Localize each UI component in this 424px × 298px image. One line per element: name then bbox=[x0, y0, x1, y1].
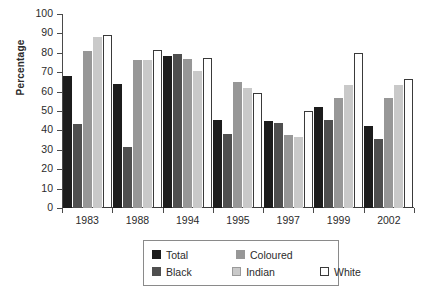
legend-swatch-icon bbox=[236, 250, 245, 259]
legend-swatch-icon bbox=[152, 250, 161, 259]
bar-group bbox=[364, 14, 414, 208]
legend-label: White bbox=[334, 266, 361, 278]
y-tick-label: 50 bbox=[41, 104, 53, 116]
legend-item-total[interactable]: Total bbox=[152, 249, 226, 261]
legend-row: TotalColoured bbox=[152, 246, 330, 263]
bar-group bbox=[112, 14, 162, 208]
bar-chart: Percentage 1009080706050403020100 198319… bbox=[0, 0, 424, 298]
bar-group bbox=[62, 14, 112, 208]
x-axis-labels: 1983198819941995199719992002 bbox=[62, 214, 414, 226]
bar bbox=[304, 111, 313, 208]
x-tick-mark bbox=[62, 208, 63, 213]
legend-swatch-icon bbox=[232, 267, 241, 276]
legend-swatch-icon bbox=[152, 267, 161, 276]
bar bbox=[384, 98, 393, 208]
bar bbox=[264, 121, 273, 208]
x-axis-label: 1995 bbox=[213, 214, 263, 226]
legend-label: Indian bbox=[246, 266, 275, 278]
chart-legend: TotalColouredBlackIndianWhite bbox=[143, 240, 339, 286]
bar-group bbox=[263, 14, 313, 208]
bars-layer bbox=[62, 14, 414, 208]
bar bbox=[374, 139, 383, 208]
legend-item-indian[interactable]: Indian bbox=[232, 266, 310, 278]
x-axis-label: 1983 bbox=[62, 214, 112, 226]
bar-group bbox=[213, 14, 263, 208]
bar bbox=[334, 98, 343, 208]
x-axis-label: 1994 bbox=[163, 214, 213, 226]
y-tick-label: 30 bbox=[41, 143, 53, 155]
bar bbox=[243, 88, 252, 208]
bar bbox=[153, 50, 162, 208]
bar bbox=[183, 59, 192, 208]
bar bbox=[103, 35, 112, 208]
y-tick-label: 70 bbox=[41, 65, 53, 77]
bar-group bbox=[313, 14, 363, 208]
y-tick-label: 80 bbox=[41, 46, 53, 58]
y-tick-label: 100 bbox=[35, 7, 53, 19]
legend-label: Coloured bbox=[250, 249, 293, 261]
x-axis-label: 2002 bbox=[364, 214, 414, 226]
bar bbox=[253, 93, 262, 208]
bar bbox=[324, 120, 333, 208]
bar bbox=[163, 56, 172, 208]
bar bbox=[284, 135, 293, 208]
bar bbox=[113, 84, 122, 208]
bar bbox=[203, 58, 212, 208]
legend-label: Total bbox=[166, 249, 188, 261]
y-tick-label: 60 bbox=[41, 85, 53, 97]
bar-group bbox=[163, 14, 213, 208]
x-axis-label: 1988 bbox=[112, 214, 162, 226]
x-tick-mark bbox=[112, 208, 113, 213]
y-tick-label: 10 bbox=[41, 182, 53, 194]
x-tick-mark bbox=[163, 208, 164, 213]
legend-item-black[interactable]: Black bbox=[152, 266, 222, 278]
bar bbox=[344, 85, 353, 208]
bar bbox=[274, 123, 283, 208]
bar bbox=[143, 60, 152, 208]
legend-label: Black bbox=[166, 266, 192, 278]
bar bbox=[73, 124, 82, 208]
x-tick-mark bbox=[263, 208, 264, 213]
bar bbox=[364, 126, 373, 208]
x-axis-label: 1999 bbox=[313, 214, 363, 226]
y-tick-label: 40 bbox=[41, 123, 53, 135]
bar bbox=[63, 76, 72, 208]
bar bbox=[213, 120, 222, 208]
bar bbox=[173, 54, 182, 208]
x-tick-mark bbox=[364, 208, 365, 213]
y-tick-label: 90 bbox=[41, 26, 53, 38]
y-tick-label: 20 bbox=[41, 162, 53, 174]
bar bbox=[294, 137, 303, 208]
legend-item-coloured[interactable]: Coloured bbox=[236, 249, 318, 261]
bar bbox=[394, 85, 403, 208]
bar bbox=[223, 134, 232, 208]
bar bbox=[123, 147, 132, 208]
legend-row: BlackIndianWhite bbox=[152, 263, 330, 280]
x-tick-mark bbox=[213, 208, 214, 213]
x-tick-mark bbox=[414, 208, 415, 213]
x-axis-label: 1997 bbox=[263, 214, 313, 226]
bar bbox=[404, 79, 413, 208]
bar bbox=[314, 107, 323, 208]
y-tick-label: 0 bbox=[47, 201, 53, 213]
bar bbox=[133, 60, 142, 208]
x-tick-mark bbox=[313, 208, 314, 213]
bar bbox=[233, 82, 242, 208]
legend-swatch-icon bbox=[320, 267, 329, 276]
bar bbox=[83, 51, 92, 208]
bar bbox=[193, 71, 202, 208]
bar bbox=[354, 53, 363, 208]
y-axis-ticks: 1009080706050403020100 bbox=[0, 14, 62, 208]
bar bbox=[93, 37, 102, 208]
